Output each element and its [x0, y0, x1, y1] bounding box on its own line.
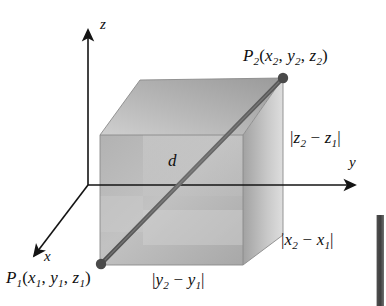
p1-x: x [28, 268, 36, 287]
point-label-p2: P2(x2, y2, z2) [243, 47, 328, 67]
dz-bar-close: | [337, 128, 341, 147]
box-diagram-svg [0, 0, 386, 306]
point-dot-p2 [278, 73, 288, 83]
p2-x: x [265, 46, 273, 65]
p2-y: y [287, 46, 295, 65]
point-dot-p1 [96, 259, 106, 269]
dz-minus: − [306, 128, 325, 147]
distance-formula-figure: z y x d P2(x2, y2, z2) P1(x1, y1, z1) |z… [0, 0, 386, 306]
axis-label-x: x [44, 249, 51, 264]
axis-label-z: z [100, 17, 106, 32]
dz-var-1: z [325, 128, 332, 147]
edge-length-label-dz: |z2 − z1| [290, 129, 341, 149]
dy-bar-close: | [201, 270, 205, 289]
page-edge-artifact [376, 215, 384, 306]
p1-comma-1: , [41, 268, 50, 287]
dx-bar-close: | [330, 230, 334, 249]
p2-comma-2: , [301, 46, 310, 65]
dx-minus: − [298, 230, 317, 249]
point-label-p1: P1(x1, y1, z1) [6, 269, 91, 289]
p1-y: y [50, 268, 58, 287]
p2-close-paren: ) [322, 46, 328, 65]
x-axis-line [34, 185, 88, 256]
dy-minus: − [169, 270, 188, 289]
edge-length-label-dy: |y2 − y1| [152, 271, 205, 291]
p2-comma-1: , [278, 46, 287, 65]
p1-p: P [6, 268, 17, 287]
diagonal-label-d: d [168, 152, 177, 169]
p2-p: P [243, 46, 254, 65]
p1-close-paren: ) [85, 268, 91, 287]
axis-label-y: y [349, 155, 356, 170]
p1-comma-2: , [64, 268, 73, 287]
edge-length-label-dx: |x2 − x1| [281, 231, 334, 251]
